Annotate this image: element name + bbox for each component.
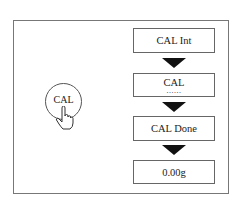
cal-button-label: CAL — [54, 94, 74, 105]
progress-dots: ...... — [167, 88, 182, 94]
step-zero-reading: 0.00g — [133, 160, 215, 184]
step-label: CAL Done — [151, 123, 197, 134]
down-triangle-icon — [162, 102, 186, 112]
step-cal-int: CAL Int — [133, 28, 215, 53]
step-label: CAL Int — [157, 35, 192, 46]
step-cal-progress: CAL ...... — [133, 73, 215, 97]
pointing-hand-icon — [55, 106, 77, 130]
step-label: 0.00g — [162, 167, 186, 178]
down-triangle-icon — [162, 145, 186, 155]
down-triangle-icon — [162, 58, 186, 68]
step-cal-done: CAL Done — [133, 116, 215, 141]
